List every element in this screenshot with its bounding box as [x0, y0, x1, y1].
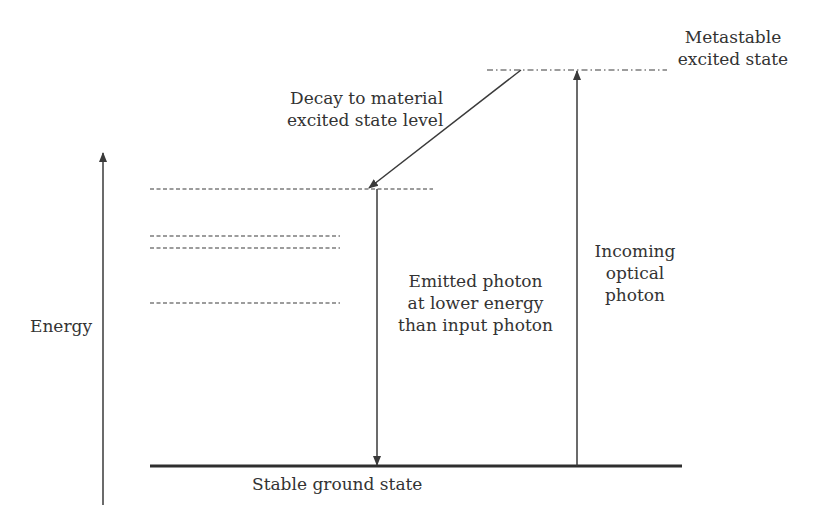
emitted-label-line-3: than input photon	[383, 314, 568, 336]
metastable-label-line-2: excited state	[668, 48, 798, 70]
incoming-label-line-1: Incoming	[580, 240, 690, 262]
incoming-photon-label: Incoming optical photon	[580, 240, 690, 306]
energy-axis-label: Energy	[30, 315, 92, 337]
decay-label: Decay to material excited state level	[287, 87, 443, 131]
incoming-label-line-2: optical	[580, 262, 690, 284]
emitted-label-line-2: at lower energy	[383, 292, 568, 314]
metastable-label-line-1: Metastable	[668, 26, 798, 48]
decay-label-line-1: Decay to material	[287, 87, 443, 109]
metastable-label: Metastable excited state	[668, 26, 798, 70]
incoming-label-line-3: photon	[580, 284, 690, 306]
emitted-label-line-1: Emitted photon	[383, 270, 568, 292]
emitted-photon-label: Emitted photon at lower energy than inpu…	[383, 270, 568, 336]
decay-label-line-2: excited state level	[287, 109, 443, 131]
energy-level-diagram	[0, 0, 815, 529]
ground-state-label: Stable ground state	[252, 473, 422, 495]
